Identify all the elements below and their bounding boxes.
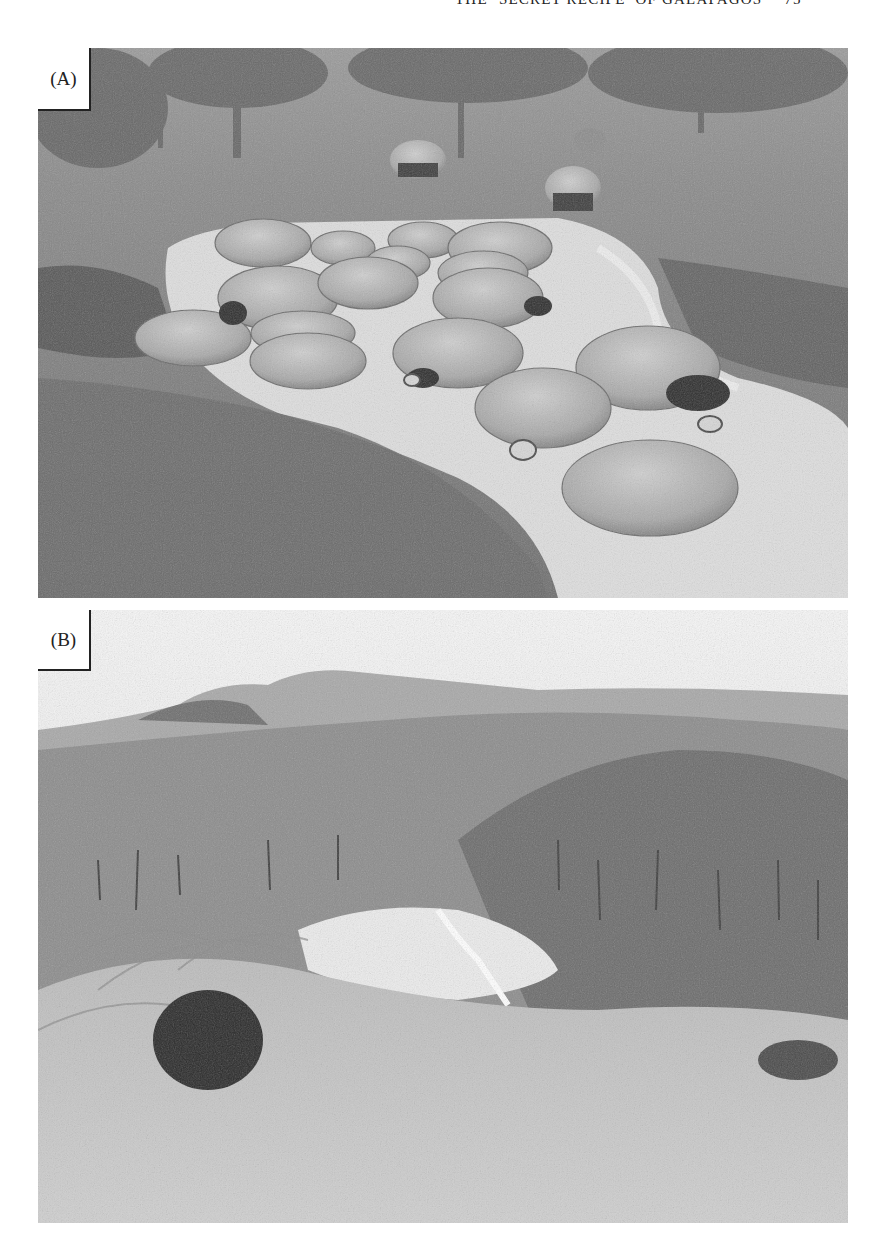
running-header-title: THE ‘SECRET RECIPE’ OF GALAPAGOS [455,0,762,7]
page-number: 75 [784,0,801,7]
figure-a-tortoises-photo: (A) [38,48,848,598]
panel-label-a: (A) [38,48,91,111]
figure-b-highland-landscape-photo: (B) [38,610,848,1223]
highland-landscape-image [38,610,848,1223]
panel-label-b: (B) [38,610,91,671]
running-header: THE ‘SECRET RECIPE’ OF GALAPAGOS75 [455,0,865,11]
tortoise-pond-image [38,48,848,598]
